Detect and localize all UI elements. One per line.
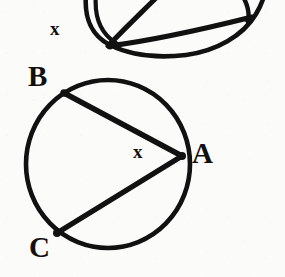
upper-figure-group	[86, 0, 266, 56]
point-c-marker	[53, 229, 61, 237]
point-label-a: A	[192, 139, 213, 168]
upper-vertex-lower	[107, 43, 114, 50]
chord-ac	[57, 156, 182, 233]
point-label-c: C	[29, 233, 50, 262]
upper-vertex-right	[244, 16, 250, 22]
point-b-marker	[60, 89, 68, 97]
main-figure-group	[26, 80, 190, 248]
angle-label-x-upper: x	[50, 19, 60, 38]
angle-label-x-inner: x	[133, 142, 143, 161]
geometry-figure: B A C x x	[0, 0, 285, 277]
point-a-marker	[178, 152, 186, 160]
point-label-b: B	[28, 62, 47, 91]
